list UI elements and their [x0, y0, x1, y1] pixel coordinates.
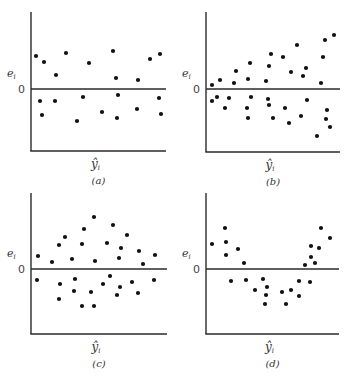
data-point [242, 261, 246, 265]
data-point [227, 96, 231, 100]
data-point [130, 280, 134, 284]
data-point [101, 282, 105, 286]
data-point [328, 236, 332, 240]
data-point [289, 288, 293, 292]
data-point [284, 302, 288, 306]
data-point [75, 119, 79, 123]
scatter-panel-a: 0eiŷi(a) [7, 12, 166, 186]
data-point [297, 279, 301, 283]
data-point [80, 242, 84, 246]
data-point [153, 253, 157, 257]
data-point [264, 79, 268, 83]
data-point [215, 95, 219, 99]
x-axis-label: ŷi [90, 340, 100, 355]
data-point [301, 74, 305, 78]
data-point [303, 263, 307, 267]
zero-tick-label: 0 [18, 263, 25, 276]
data-point [135, 107, 139, 111]
data-point [152, 278, 156, 282]
data-point [308, 280, 312, 284]
data-point [280, 290, 284, 294]
data-point [325, 108, 329, 112]
data-point [246, 116, 250, 120]
data-point [34, 54, 38, 58]
data-point [267, 64, 271, 68]
data-point [229, 279, 233, 283]
panel-caption: (d) [265, 358, 279, 369]
data-point [42, 60, 46, 64]
data-point [321, 55, 325, 59]
data-point [70, 257, 74, 261]
data-point [72, 289, 76, 293]
data-point [92, 215, 96, 219]
data-point [297, 294, 301, 298]
data-point [313, 261, 317, 265]
x-axis-label: ŷi [90, 157, 100, 172]
data-point [36, 254, 40, 258]
data-point [117, 256, 121, 260]
data-point [82, 227, 86, 231]
data-point [92, 304, 96, 308]
data-point [305, 98, 309, 102]
data-point [159, 112, 163, 116]
data-point [223, 226, 227, 230]
data-point [57, 243, 61, 247]
data-point [224, 253, 228, 257]
data-point [266, 97, 270, 101]
zero-tick-label: 0 [18, 83, 25, 96]
data-point [332, 33, 336, 37]
data-point [210, 99, 214, 103]
data-point [289, 70, 293, 74]
data-point [119, 246, 123, 250]
data-point [263, 302, 267, 306]
data-point [64, 51, 68, 55]
data-point [73, 277, 77, 281]
data-point [246, 77, 250, 81]
y-axis-label: ei [182, 247, 191, 261]
data-point [271, 116, 275, 120]
data-point [148, 57, 152, 61]
x-axis-label: ŷi [264, 158, 274, 173]
residual-plots-figure: 0eiŷi(a)0eiŷi(b)0eiŷi(c)0eiŷi(d) [0, 0, 349, 377]
panel-caption: (a) [92, 175, 106, 186]
data-point [157, 96, 161, 100]
data-point [304, 66, 308, 70]
data-point [323, 38, 327, 42]
data-point [236, 247, 240, 251]
data-point [136, 78, 140, 82]
data-point [63, 235, 67, 239]
data-point [232, 81, 236, 85]
x-axis-label: ŷi [264, 340, 274, 355]
data-point [319, 226, 323, 230]
y-axis-label: ei [7, 247, 16, 261]
data-point [315, 134, 319, 138]
scatter-panel-b: 0eiŷi(b) [182, 12, 340, 187]
data-point [253, 288, 257, 292]
data-point [324, 117, 328, 121]
data-point [137, 249, 141, 253]
data-point [328, 125, 332, 129]
data-point [100, 110, 104, 114]
data-point [54, 73, 58, 77]
data-point [58, 282, 62, 286]
data-point [81, 95, 85, 99]
data-point [299, 114, 303, 118]
y-axis-label: ei [182, 67, 191, 81]
data-point [245, 106, 249, 110]
scatter-panel-d: 0eiŷi(d) [182, 193, 339, 369]
data-point [244, 278, 248, 282]
data-point [40, 113, 44, 117]
data-point [114, 76, 118, 80]
data-point [80, 304, 84, 308]
data-point [223, 106, 227, 110]
data-point [317, 246, 321, 250]
data-point [111, 223, 115, 227]
data-point [87, 61, 91, 65]
data-point [267, 103, 271, 107]
data-point [269, 52, 273, 56]
data-point [93, 259, 97, 263]
data-point [319, 81, 323, 85]
data-point [265, 285, 269, 289]
data-point [283, 106, 287, 110]
zero-tick-label: 0 [193, 263, 200, 276]
